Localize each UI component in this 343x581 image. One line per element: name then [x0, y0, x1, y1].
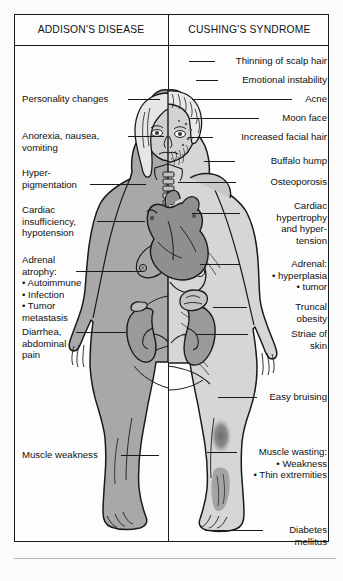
leader-diabetes-mellitus	[205, 530, 263, 531]
leader-emotional-instability	[196, 80, 218, 81]
label-cardiac-insufficiency-hypotension: Cardiac insufficiency, hypotension	[22, 204, 76, 239]
leader-adrenal-hyperplasia	[200, 264, 240, 265]
leader-cardiac-hypertrophy	[192, 213, 240, 214]
label-emotional-instability: Emotional instability	[242, 74, 327, 86]
leader-acne	[192, 99, 292, 100]
leader-anorexia	[128, 136, 164, 137]
bottom-horizontal-rule	[14, 558, 336, 559]
label-muscle-weakness: Muscle weakness	[22, 449, 98, 461]
label-adrenal-atrophy: Adrenal atrophy: • Autoimmune • Infectio…	[22, 254, 81, 324]
label-diarrhea-abdominal-pain: Diarrhea, abdominal pain	[22, 326, 66, 361]
leader-muscle-wasting	[207, 452, 237, 453]
column-title-cushings: CUSHING'S SYNDROME	[170, 14, 329, 45]
leader-cardiac-insufficiency	[97, 221, 145, 222]
label-easy-bruising: Easy bruising	[269, 391, 327, 403]
leader-osteoporosis	[178, 182, 236, 183]
label-hyperpigmentation: Hyper- pigmentation	[22, 167, 77, 190]
leader-increased-facial-hair	[188, 137, 213, 138]
label-osteoporosis: Osteoporosis	[270, 176, 327, 188]
leader-striae	[196, 334, 248, 335]
leader-muscle-weakness	[121, 455, 159, 456]
label-acne: Acne	[305, 93, 327, 105]
label-buffalo-hump: Buffalo hump	[271, 155, 327, 167]
leader-diarrhea	[76, 332, 126, 333]
leader-moon-face	[190, 118, 259, 119]
label-cardiac-hypertrophy-hypertension: Cardiac hypertrophy and hyper- tension	[276, 200, 327, 246]
label-striae-of-skin: Striae of skin	[291, 328, 327, 351]
leader-truncal-obesity	[213, 307, 247, 308]
leader-personality-changes	[128, 99, 160, 100]
label-muscle-wasting: Muscle wasting: • Weakness • Thin extrem…	[253, 446, 327, 481]
leader-buffalo-hump	[204, 161, 235, 162]
label-personality-changes: Personality changes	[22, 93, 108, 105]
leader-easy-bruising	[218, 397, 257, 398]
label-thinning-of-scalp-hair: Thinning of scalp hair	[236, 55, 327, 67]
label-diabetes-mellitus: Diabetes mellitus	[289, 524, 327, 547]
leader-hyperpigmentation	[90, 184, 146, 185]
label-anorexia-nausea-vomiting: Anorexia, nausea, vomiting	[22, 130, 99, 153]
label-moon-face: Moon face	[282, 112, 327, 124]
leader-adrenal-atrophy	[76, 271, 142, 272]
label-truncal-obesity: Truncal obesity	[295, 301, 327, 324]
diagram-root: ADDISON'S DISEASE CUSHING'S SYNDROME	[0, 0, 343, 581]
label-adrenal-hyperplasia-tumor: Adrenal: • hyperplasia • tumor	[272, 258, 327, 293]
leader-thinning-scalp-hair	[189, 61, 215, 62]
label-increased-facial-hair: Increased facial hair	[241, 131, 327, 143]
column-title-addisons: ADDISON'S DISEASE	[14, 14, 168, 45]
